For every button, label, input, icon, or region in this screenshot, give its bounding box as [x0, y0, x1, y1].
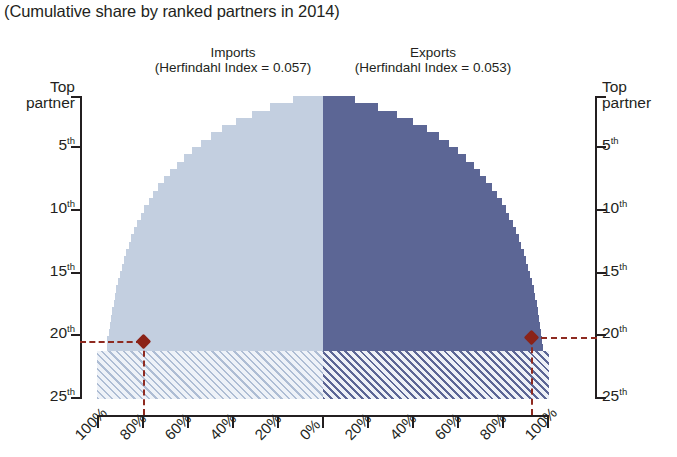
exports-herfindahl-label: (Herfindahl Index = 0.053): [333, 61, 533, 76]
y-axis-right-spine: [595, 96, 597, 399]
y-axis-right: Toppartner5th10th15th20th25th: [588, 96, 597, 399]
exports-hatched-tail: [323, 351, 549, 399]
exports-title: Exports: [333, 46, 533, 61]
imports-herfindahl-label: (Herfindahl Index = 0.057): [133, 61, 333, 76]
chart-root: ) (Cumulative share by ranked partners i…: [0, 0, 677, 457]
imports-panel-header: Imports (Herfindahl Index = 0.057): [133, 46, 333, 75]
x-axis-tick-label: 40%: [206, 410, 239, 443]
y-axis-tick-label: Toppartner: [26, 79, 75, 110]
y-axis-tick-label: 10th: [602, 199, 627, 216]
x-axis-tick-label: 20%: [251, 410, 284, 443]
exports-panel-header: Exports (Herfindahl Index = 0.053): [333, 46, 533, 75]
y-axis-tick-label: 25th: [50, 387, 75, 404]
imports-title: Imports: [133, 46, 333, 61]
y-axis-tick-label: 15th: [50, 262, 75, 279]
imports-hatched-tail: [97, 351, 323, 399]
imports-marker-guide-horizontal: [80, 341, 142, 343]
x-axis-tick-label: 0%: [296, 416, 323, 443]
imports-marker-guide-vertical: [143, 341, 145, 415]
x-axis-tick-label: 60%: [161, 410, 194, 443]
y-axis-tick-label: 5th: [58, 136, 75, 153]
y-axis-tick-label: Toppartner: [602, 79, 651, 110]
y-axis-tick-label: 5th: [602, 136, 619, 153]
y-axis-left: Toppartner5th10th15th20th25th: [80, 96, 89, 399]
x-axis-tick-label: 60%: [431, 410, 464, 443]
x-axis-tick-label: 100%: [71, 404, 110, 443]
exports-marker-guide-vertical: [531, 337, 533, 415]
y-axis-tick-label: 25th: [602, 387, 627, 404]
y-axis-left-spine: [80, 96, 82, 399]
x-axis: 100%80%60%40%20%0%20%40%60%80%100%: [97, 415, 549, 417]
chart-subtitle: (Cumulative share by ranked partners in …: [4, 2, 340, 21]
y-axis-tick-label: 15th: [602, 262, 627, 279]
plot-area: [97, 96, 549, 399]
y-axis-tick-label: 20th: [50, 324, 75, 341]
y-axis-tick-label: 20th: [602, 324, 627, 341]
x-axis-tick-label: 80%: [476, 410, 509, 443]
exports-marker-guide-horizontal: [531, 337, 597, 339]
x-axis-tick-label: 100%: [521, 404, 560, 443]
x-axis-tick-label: 40%: [386, 410, 419, 443]
y-axis-tick-label: 10th: [50, 199, 75, 216]
x-axis-tick-label: 20%: [341, 410, 374, 443]
